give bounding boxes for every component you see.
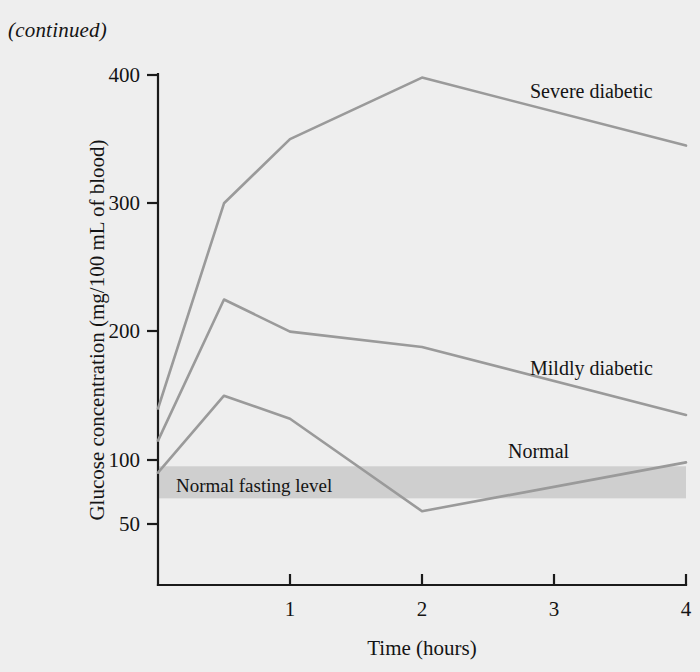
glucose-tolerance-chart: 400 300 200 100 50 1 2 3 4 Time (hours) …	[0, 0, 700, 672]
y-tick-label-200: 200	[109, 319, 141, 343]
series-label-mildly-diabetic: Mildly diabetic	[530, 357, 653, 380]
figure-root: (continued) 400 300 200 100 50 1 2	[0, 0, 700, 672]
series-label-severe-diabetic: Severe diabetic	[530, 80, 653, 102]
x-axis-ticks	[290, 574, 686, 585]
x-tick-label-3: 3	[549, 597, 560, 621]
normal-fasting-band-label: Normal fasting level	[176, 475, 332, 496]
x-tick-label-1: 1	[285, 597, 296, 621]
y-axis-title: Glucose concentration (mg/100 mL of bloo…	[85, 139, 109, 520]
x-tick-label-2: 2	[417, 597, 428, 621]
y-tick-label-300: 300	[109, 191, 141, 215]
y-tick-label-100: 100	[109, 448, 141, 472]
y-tick-label-50: 50	[119, 512, 140, 536]
x-tick-label-4: 4	[681, 597, 692, 621]
y-axis-ticks	[147, 75, 158, 524]
x-axis-title: Time (hours)	[367, 636, 476, 660]
series-label-normal: Normal	[508, 440, 570, 462]
y-tick-label-400: 400	[109, 63, 141, 87]
